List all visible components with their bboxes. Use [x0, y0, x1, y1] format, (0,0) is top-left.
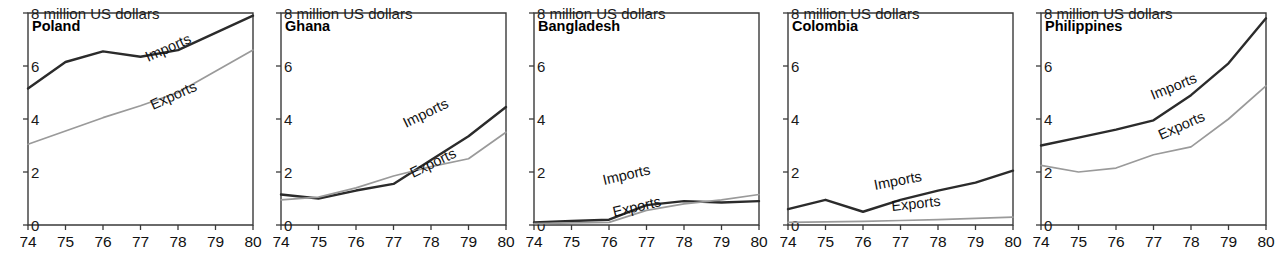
y-tick-label: 2	[284, 164, 292, 181]
y-tick-label: 0	[791, 217, 799, 234]
y-tick-label: 2	[791, 164, 799, 181]
x-tick-label: 75	[57, 233, 74, 250]
chart-panel-bangladesh: 024674757677787980Bangladesh8 million US…	[526, 0, 779, 253]
series-label-imports: Imports	[400, 95, 450, 131]
y-tick-label: 2	[537, 164, 545, 181]
series-line-exports	[281, 132, 506, 200]
x-tick-label: 76	[1107, 233, 1124, 250]
x-tick-label: 74	[20, 233, 37, 250]
x-tick-label: 77	[892, 233, 909, 250]
chart-canvas: 024674757677787980Bangladesh8 million US…	[526, 0, 779, 253]
y-tick-label: 0	[284, 217, 292, 234]
x-tick-label: 80	[1004, 233, 1022, 250]
plot-frame	[788, 13, 1013, 225]
series-label-imports: Imports	[601, 161, 652, 187]
y-unit-note: 8 million US dollars	[284, 5, 412, 22]
series-label-imports: Imports	[873, 168, 924, 193]
x-tick-label: 78	[169, 233, 186, 250]
x-tick-label: 74	[1033, 233, 1050, 250]
y-tick-label: 4	[791, 111, 799, 128]
x-tick-label: 77	[385, 233, 402, 250]
chart-panel-poland: 024674757677787980Poland8 million US dol…	[20, 0, 273, 253]
x-tick-label: 75	[310, 233, 327, 250]
series-line-exports	[788, 217, 1013, 222]
chart-canvas: 024674757677787980Colombia8 million US d…	[780, 0, 1033, 253]
chart-panel-ghana: 024674757677787980Ghana8 million US doll…	[273, 0, 526, 253]
x-tick-label: 80	[244, 233, 262, 250]
x-tick-label: 78	[422, 233, 439, 250]
plot-frame	[281, 13, 506, 225]
y-unit-note: 8 million US dollars	[537, 5, 665, 22]
x-tick-label: 74	[780, 233, 797, 250]
y-unit-note: 8 million US dollars	[31, 5, 159, 22]
y-tick-label: 4	[31, 111, 39, 128]
series-label-imports: Imports	[143, 30, 194, 64]
x-tick-label: 75	[1070, 233, 1087, 250]
chart-panel-philippines: 024674757677787980Philippines8 million U…	[1033, 0, 1275, 253]
x-tick-label: 80	[1257, 233, 1275, 250]
plot-frame	[534, 13, 759, 225]
chart-panel-colombia: 024674757677787980Colombia8 million US d…	[780, 0, 1033, 253]
y-tick-label: 0	[31, 217, 39, 234]
series-label-exports: Exports	[611, 193, 663, 220]
x-tick-label: 80	[750, 233, 768, 250]
chart-canvas: 024674757677787980Ghana8 million US doll…	[273, 0, 526, 253]
y-unit-note: 8 million US dollars	[1044, 5, 1172, 22]
x-tick-label: 79	[1220, 233, 1237, 250]
y-unit-note: 8 million US dollars	[791, 5, 919, 22]
x-tick-label: 79	[207, 233, 224, 250]
y-tick-label: 6	[1044, 58, 1052, 75]
x-tick-label: 76	[347, 233, 364, 250]
x-tick-label: 77	[1145, 233, 1162, 250]
plot-frame	[28, 13, 253, 225]
x-tick-label: 78	[675, 233, 692, 250]
x-tick-label: 79	[460, 233, 477, 250]
series-label-exports: Exports	[148, 78, 199, 113]
chart-canvas: 024674757677787980Poland8 million US dol…	[20, 0, 273, 253]
chart-canvas: 024674757677787980Philippines8 million U…	[1033, 0, 1275, 253]
x-tick-label: 75	[817, 233, 834, 250]
y-tick-label: 6	[791, 58, 799, 75]
x-tick-label: 76	[600, 233, 617, 250]
series-label-exports: Exports	[407, 145, 458, 181]
series-label-imports: Imports	[1148, 70, 1199, 103]
y-tick-label: 2	[31, 164, 39, 181]
series-line-imports	[1041, 18, 1266, 145]
y-tick-label: 6	[284, 58, 292, 75]
y-tick-label: 4	[537, 111, 545, 128]
y-tick-label: 4	[284, 111, 292, 128]
x-tick-label: 78	[1182, 233, 1199, 250]
x-tick-label: 80	[497, 233, 515, 250]
x-tick-label: 79	[967, 233, 984, 250]
y-tick-label: 0	[537, 217, 545, 234]
y-tick-label: 0	[1044, 217, 1052, 234]
x-tick-label: 76	[854, 233, 871, 250]
x-tick-label: 77	[638, 233, 655, 250]
small-multiples-figure: 024674757677787980Poland8 million US dol…	[0, 0, 1275, 253]
x-tick-label: 74	[526, 233, 543, 250]
x-tick-label: 76	[94, 233, 111, 250]
x-tick-label: 79	[713, 233, 730, 250]
y-tick-label: 6	[537, 58, 545, 75]
y-tick-label: 4	[1044, 111, 1052, 128]
series-line-imports	[281, 107, 506, 198]
y-tick-label: 6	[31, 58, 39, 75]
x-tick-label: 78	[929, 233, 946, 250]
x-tick-label: 75	[563, 233, 580, 250]
series-label-exports: Exports	[891, 193, 942, 214]
x-tick-label: 77	[132, 233, 149, 250]
x-tick-label: 74	[273, 233, 290, 250]
